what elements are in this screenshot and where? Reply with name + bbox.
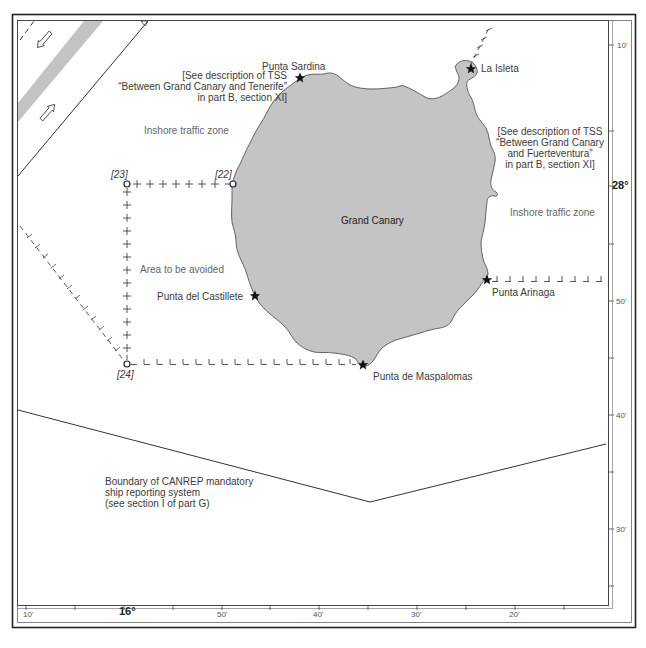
lon-label-50: 50' bbox=[217, 610, 227, 619]
lat-label-10: 10' bbox=[617, 41, 627, 50]
note-canrep-boundary: Boundary of CANREP mandatory ship report… bbox=[105, 476, 305, 509]
lat-label-40: 40' bbox=[616, 411, 626, 420]
note-line: in part B, section XI] bbox=[491, 159, 609, 170]
label-waypoint-22: [22] bbox=[215, 169, 232, 180]
label-island-name: Grand Canary bbox=[341, 215, 404, 226]
lon-label-30: 30' bbox=[411, 610, 421, 619]
note-tss-fuerteventura: [See description of TSS “Between Grand C… bbox=[491, 126, 609, 170]
label-punta-arinaga: Punta Arinaga bbox=[492, 287, 555, 298]
arinaga-boundary bbox=[492, 276, 604, 282]
lon-label-10: 10' bbox=[23, 610, 33, 619]
note-line: in part B, section XI] bbox=[97, 92, 287, 103]
label-waypoint-24: [24] bbox=[117, 369, 134, 380]
lat-label-28deg: 28° bbox=[612, 181, 629, 190]
note-line: “Between Grand Canary bbox=[491, 137, 609, 148]
label-punta-castillete: Punta del Castillete bbox=[157, 291, 243, 302]
label-waypoint-23: [23] bbox=[111, 169, 128, 180]
lat-label-30: 30' bbox=[616, 525, 626, 534]
lon-label-20: 20' bbox=[509, 610, 519, 619]
lon-label-40: 40' bbox=[313, 610, 323, 619]
waypoint-23-marker bbox=[124, 181, 130, 187]
lat-label-50: 50' bbox=[616, 297, 626, 306]
note-line: and Fuerteventura” bbox=[491, 148, 609, 159]
note-line: “Between Grand Canary and Tenerife” bbox=[97, 81, 287, 92]
waypoint-22-marker bbox=[230, 181, 236, 187]
waypoint-24-marker bbox=[124, 361, 130, 367]
lane-arrow-southwest-icon bbox=[34, 30, 53, 50]
lane-arrow-northeast-icon bbox=[38, 102, 57, 122]
label-inshore-zone-west: Inshore traffic zone bbox=[144, 125, 229, 136]
note-line: [See description of TSS bbox=[491, 126, 609, 137]
island-grand-canary bbox=[232, 60, 498, 366]
note-line: [See description of TSS bbox=[97, 70, 287, 81]
note-tss-tenerife: [See description of TSS “Between Grand C… bbox=[97, 70, 287, 103]
note-line: Boundary of CANREP mandatory bbox=[105, 476, 305, 487]
label-la-isleta: La Isleta bbox=[481, 63, 519, 74]
note-line: (see section I of part G) bbox=[105, 498, 305, 509]
tss-boundary-la-isleta bbox=[470, 26, 492, 66]
label-area-avoided: Area to be avoided bbox=[140, 264, 224, 275]
diagonal-boundary bbox=[20, 226, 125, 362]
note-line: ship reporting system bbox=[105, 487, 305, 498]
label-inshore-zone-east: Inshore traffic zone bbox=[510, 207, 595, 218]
label-punta-maspalomas: Punta de Maspalomas bbox=[373, 371, 473, 382]
lon-label-16deg: 16° bbox=[119, 607, 136, 616]
